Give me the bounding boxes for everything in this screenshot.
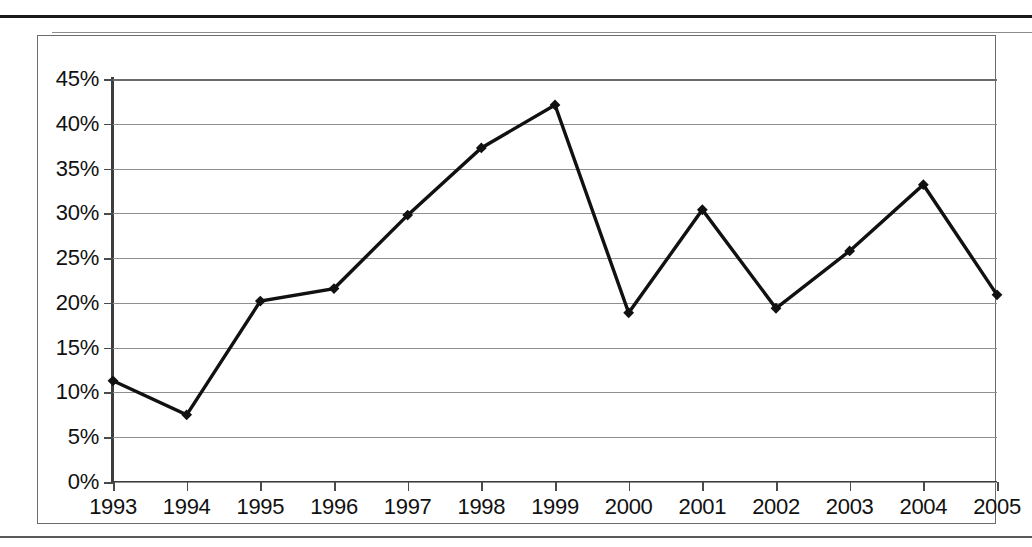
y-axis-tick: [104, 303, 113, 305]
top-rule-thin: [52, 32, 1032, 33]
y-axis-tick: [104, 482, 113, 484]
x-axis-label: 1995: [236, 494, 284, 520]
y-axis-label: 30%: [56, 200, 99, 226]
x-axis-label: 1994: [163, 494, 211, 520]
x-axis-tick: [334, 482, 336, 491]
y-axis-label: 10%: [56, 379, 99, 405]
x-axis-tick: [629, 482, 631, 491]
x-axis-tick: [260, 482, 262, 491]
y-axis-tick: [104, 258, 113, 260]
x-axis-label: 2002: [752, 494, 800, 520]
x-axis-tick: [481, 482, 483, 491]
x-axis-tick: [408, 482, 410, 491]
y-axis-label: 25%: [56, 245, 99, 271]
chart-frame: 45%40%35%30%25%20%15%10%5%0% 19931994199…: [37, 35, 996, 524]
x-axis-tick: [850, 482, 852, 491]
x-axis-label: 1998: [457, 494, 505, 520]
y-axis-label: 20%: [56, 290, 99, 316]
x-axis-label: 1997: [384, 494, 432, 520]
chart-page: 45%40%35%30%25%20%15%10%5%0% 19931994199…: [0, 0, 1032, 547]
y-axis-tick: [104, 213, 113, 215]
y-axis-label: 35%: [56, 156, 99, 182]
plot-area: 45%40%35%30%25%20%15%10%5%0% 19931994199…: [113, 79, 997, 482]
data-series-line: [113, 79, 997, 482]
x-axis-label: 2005: [973, 494, 1021, 520]
y-axis-label: 40%: [56, 111, 99, 137]
x-axis-label: 1999: [531, 494, 579, 520]
x-axis-label: 2000: [605, 494, 653, 520]
x-axis-tick: [702, 482, 704, 491]
x-axis-label: 2004: [899, 494, 947, 520]
y-axis-tick: [104, 392, 113, 394]
x-axis-tick: [776, 482, 778, 491]
y-axis-tick: [104, 348, 113, 350]
x-axis-tick: [923, 482, 925, 491]
series-polyline: [113, 105, 997, 415]
x-axis-label: 1996: [310, 494, 358, 520]
y-axis-tick: [104, 79, 113, 81]
y-axis-label: 45%: [56, 66, 99, 92]
y-axis-tick: [104, 124, 113, 126]
x-axis-tick: [113, 482, 115, 491]
x-axis-label: 2001: [678, 494, 726, 520]
x-axis-tick: [187, 482, 189, 491]
x-axis-label: 2003: [826, 494, 874, 520]
top-rule-thick: [0, 15, 1032, 18]
bottom-rule: [0, 536, 1032, 538]
y-axis-tick: [104, 169, 113, 171]
x-axis-label: 1993: [89, 494, 137, 520]
y-axis-label: 0%: [68, 469, 99, 495]
x-axis-tick: [555, 482, 557, 491]
data-point-marker: [108, 375, 119, 386]
y-axis-label: 15%: [56, 335, 99, 361]
y-axis-label: 5%: [68, 424, 99, 450]
x-axis-tick: [997, 482, 999, 491]
y-axis-tick: [104, 437, 113, 439]
